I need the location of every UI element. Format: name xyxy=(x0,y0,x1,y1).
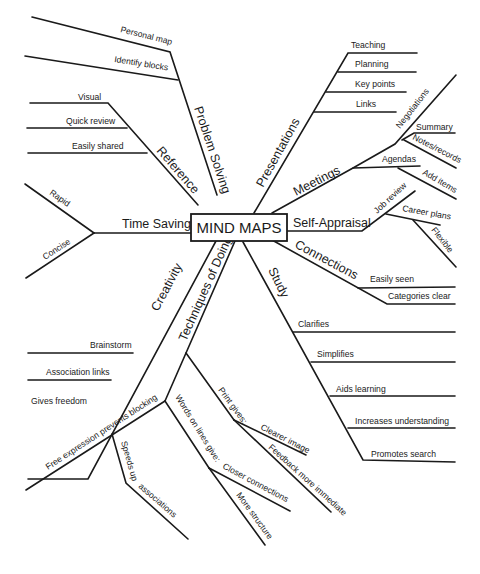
label-quick-review: Quick review xyxy=(66,116,116,126)
label-presentations: Presentations xyxy=(253,116,302,190)
label-study: Study xyxy=(265,265,292,301)
label-links: Links xyxy=(356,99,376,109)
label-meetings: Meetings xyxy=(291,163,343,199)
label-techniques-of-doing: Techniques of Doing xyxy=(176,234,235,343)
label-flexible: Flexible xyxy=(429,225,455,255)
line-problem-solving xyxy=(32,17,217,195)
label-gives-freedom: Gives freedom xyxy=(31,396,87,406)
branch-connections: Connections Easily seen Categories clear xyxy=(272,237,455,304)
label-easily-seen: Easily seen xyxy=(370,274,414,284)
label-time-saving: Time Saving xyxy=(122,217,191,231)
branch-time-saving: Time Saving Rapid Concise xyxy=(25,184,191,278)
label-speeds-up: Speeds up xyxy=(119,440,140,482)
label-clarifies: Clarifies xyxy=(298,319,329,329)
label-visual: Visual xyxy=(78,92,101,102)
label-association-links: Association links xyxy=(46,367,110,377)
line-free-expression xyxy=(26,401,165,490)
central-node: MIND MAPS xyxy=(191,214,287,241)
label-easily-shared: Easily shared xyxy=(72,141,124,151)
label-self-appraisal: Self-Appraisal xyxy=(293,216,371,230)
label-categories-clear: Categories clear xyxy=(388,291,451,301)
label-simplifies: Simplifies xyxy=(317,349,354,359)
label-key-points: Key points xyxy=(355,79,395,89)
label-words-on-lines: Words on lines give: xyxy=(173,393,222,464)
branch-techniques-of-doing: Techniques of Doing Free expression prev… xyxy=(26,234,349,545)
label-agendas: Agendas xyxy=(382,154,416,164)
label-connections: Connections xyxy=(293,237,361,282)
label-identify-blocks: Identify blocks xyxy=(114,54,169,72)
label-planning: Planning xyxy=(355,59,389,69)
branch-meetings: Meetings Negotiations Summary Notes/reco… xyxy=(272,75,463,213)
line-agendas xyxy=(353,166,420,168)
label-rapid: Rapid xyxy=(48,187,72,208)
label-teaching: Teaching xyxy=(351,40,386,50)
branch-presentations: Presentations Teaching Planning Key poin… xyxy=(253,40,417,213)
label-reference: Reference xyxy=(154,144,202,197)
central-node-title: MIND MAPS xyxy=(196,219,281,236)
label-promotes-search: Promotes search xyxy=(371,449,436,459)
label-personal-map: Personal map xyxy=(120,24,174,47)
mind-map-diagram: Problem Solving Personal map Identify bl… xyxy=(0,0,480,574)
line-easily-seen xyxy=(358,287,455,288)
label-summary: Summary xyxy=(416,122,453,132)
label-increases-understanding: Increases understanding xyxy=(355,416,449,426)
label-aids-learning: Aids learning xyxy=(336,384,386,394)
label-associations: associations xyxy=(137,481,179,520)
label-creativity: Creativity xyxy=(148,260,185,313)
label-brainstorm: Brainstorm xyxy=(90,340,132,350)
branch-problem-solving: Problem Solving Personal map Identify bl… xyxy=(25,17,233,195)
label-more-structure: More structure xyxy=(234,490,275,541)
